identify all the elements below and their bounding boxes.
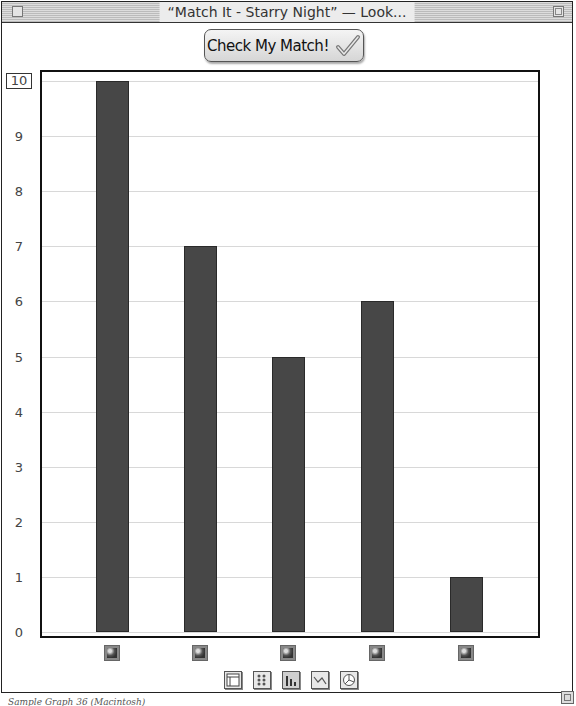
- window-title: “Match It - Starry Night” — Look...: [160, 2, 415, 22]
- bar[interactable]: [450, 577, 483, 632]
- bar-chart-icon: [284, 673, 298, 687]
- pictograph-view-button[interactable]: [253, 671, 271, 689]
- pictograph-icon: [255, 673, 269, 687]
- bar-chart-view-button[interactable]: [282, 671, 300, 689]
- line-chart-view-button[interactable]: [311, 671, 329, 689]
- y-tick-label: 8: [4, 184, 34, 199]
- bar[interactable]: [184, 246, 217, 632]
- checkmark-icon: [335, 34, 361, 58]
- figure-caption: Sample Graph 36 (Macintosh): [8, 697, 145, 706]
- plot-area: [40, 70, 540, 638]
- y-tick-label: 6: [4, 294, 34, 309]
- y-tick-label: 1: [4, 569, 34, 584]
- pie-chart-icon: [342, 673, 356, 687]
- bar[interactable]: [361, 301, 394, 632]
- line-chart-icon: [313, 673, 327, 687]
- y-tick-label: 5: [4, 349, 34, 364]
- category-picture-icon[interactable]: [369, 645, 385, 661]
- close-box-icon[interactable]: [12, 6, 23, 17]
- table-icon: [226, 673, 240, 687]
- category-picture-icon[interactable]: [458, 645, 474, 661]
- resize-grow-box-icon[interactable]: [561, 691, 574, 704]
- zoom-box-icon[interactable]: [553, 6, 564, 17]
- y-tick-label: 3: [4, 459, 34, 474]
- pie-chart-view-button[interactable]: [340, 671, 358, 689]
- bar[interactable]: [272, 357, 305, 633]
- y-tick-label: 0: [4, 625, 34, 640]
- y-tick-label[interactable]: 10: [6, 73, 32, 89]
- bar[interactable]: [96, 81, 129, 632]
- check-my-match-button[interactable]: Check My Match!: [204, 29, 364, 62]
- y-tick-label: 4: [4, 404, 34, 419]
- category-picture-icon[interactable]: [104, 645, 120, 661]
- title-bar[interactable]: “Match It - Starry Night” — Look...: [2, 2, 572, 23]
- category-picture-icon[interactable]: [192, 645, 208, 661]
- category-picture-icon[interactable]: [280, 645, 296, 661]
- table-view-button[interactable]: [224, 671, 242, 689]
- check-my-match-label: Check My Match!: [207, 37, 329, 55]
- gridline: [42, 632, 538, 633]
- y-tick-label: 7: [4, 239, 34, 254]
- y-tick-label: 9: [4, 129, 34, 144]
- y-tick-label: 2: [4, 514, 34, 529]
